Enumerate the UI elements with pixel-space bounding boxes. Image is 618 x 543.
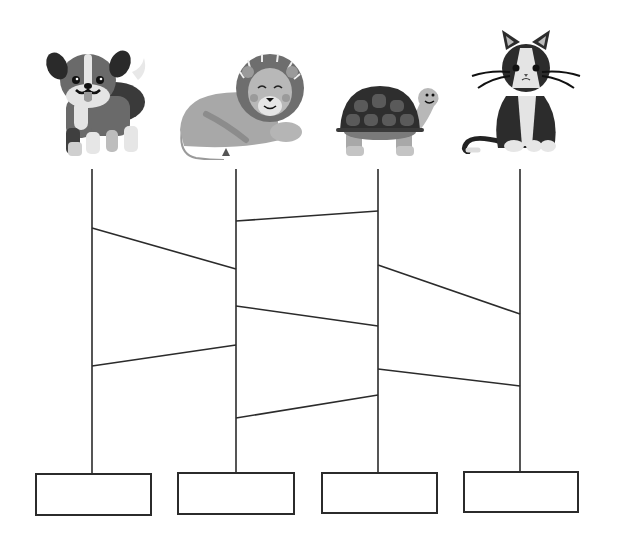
answer-box-3[interactable] [321, 472, 438, 514]
ladder-rung [92, 345, 236, 366]
ladder-rung [236, 211, 378, 221]
ladder-rung [92, 228, 236, 269]
ladder-rung [378, 369, 520, 386]
answer-box-4[interactable] [463, 471, 579, 513]
ladder-rung [378, 265, 520, 314]
ladder-worksheet: Follow the lines to match each animal to… [0, 0, 618, 543]
ladder-rung [236, 395, 378, 418]
answer-box-1[interactable] [35, 473, 152, 516]
ladder-lines [0, 0, 618, 543]
answer-box-2[interactable] [177, 472, 295, 515]
ladder-rung [236, 306, 378, 326]
